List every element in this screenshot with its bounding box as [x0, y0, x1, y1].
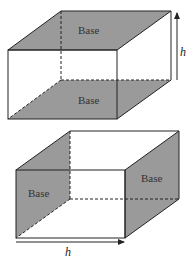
- left-base-face: [16, 131, 70, 238]
- right-base-face: [125, 131, 179, 238]
- height-label: h: [180, 45, 186, 59]
- height-label: h: [65, 245, 71, 259]
- prism-horizontal-height: Base Base h: [16, 131, 179, 259]
- left-base-label: Base: [28, 187, 50, 199]
- prism-vertical-height: Base Base h: [8, 11, 186, 119]
- bottom-base-label: Base: [78, 94, 100, 106]
- right-base-label: Base: [141, 172, 163, 184]
- prism-bases-diagram: Base Base h Base Base h: [0, 0, 195, 262]
- top-base-label: Base: [78, 24, 100, 36]
